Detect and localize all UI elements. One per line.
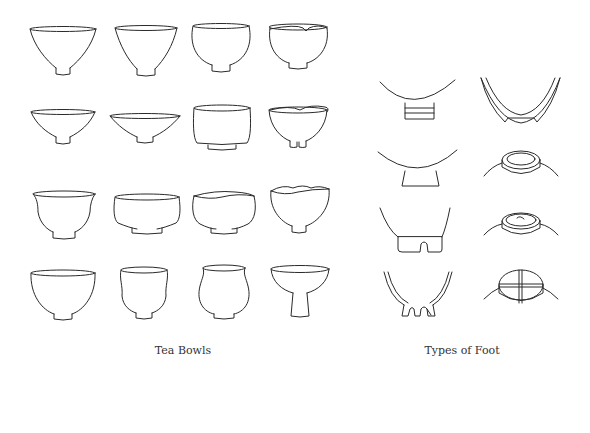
bowl-r2c2: [110, 114, 180, 144]
foot-r1c1: [380, 80, 455, 119]
foot-r3c1: [380, 208, 450, 252]
bowl-r3c4: [271, 186, 329, 233]
bowl-r3c3: [193, 192, 256, 235]
foot-r4c1: [384, 272, 452, 316]
bowl-r2c1: [31, 110, 95, 145]
foot-r4c2: [484, 270, 558, 303]
bowl-r1c1: [30, 27, 96, 76]
tea-bowl-illustration: [0, 0, 590, 433]
foot-r2c2: [484, 151, 558, 176]
bowl-r2c4: [269, 106, 328, 148]
bowl-r4c1: [31, 270, 95, 320]
bowl-r3c1: [33, 191, 95, 239]
bowl-r1c2: [115, 26, 177, 77]
types-of-foot-panel: [378, 78, 560, 316]
tea-bowls-panel: [30, 24, 329, 321]
foot-r1c2: [481, 78, 560, 123]
bowl-r1c4: [269, 24, 327, 69]
bowl-r3c2: [114, 194, 180, 234]
bowl-r4c2: [120, 267, 167, 319]
bowl-r1c3: [192, 24, 250, 73]
types-of-foot-caption: Types of Foot: [424, 344, 499, 357]
bowl-r2c3: [193, 105, 250, 150]
bowl-r4c4: [271, 266, 329, 318]
foot-r3c2: [484, 213, 558, 235]
tea-bowls-caption: Tea Bowls: [155, 344, 211, 357]
bowl-r4c3: [199, 265, 249, 319]
foot-r2c1: [378, 150, 457, 186]
